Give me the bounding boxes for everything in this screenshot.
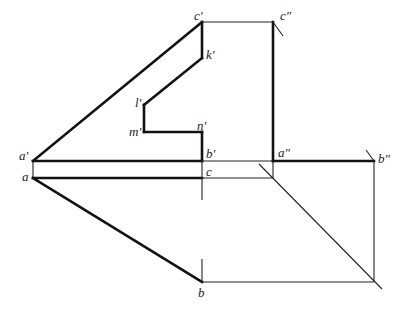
tick-b2 xyxy=(366,150,374,161)
label-a: a xyxy=(22,169,29,184)
label-b-prime: b′ xyxy=(206,146,216,161)
label-k-prime: k′ xyxy=(206,47,215,62)
label-l-prime: l′ xyxy=(135,95,142,110)
label-a-prime: a′ xyxy=(19,148,29,163)
label-m-prime: m′ xyxy=(129,124,141,139)
label-b-dprime: b″ xyxy=(378,151,391,166)
edge-a-b xyxy=(33,178,202,282)
label-c-dprime: c″ xyxy=(280,8,292,23)
label-n-prime: n′ xyxy=(197,118,207,133)
front-view xyxy=(33,22,202,161)
label-a-dprime: a″ xyxy=(278,145,291,160)
projection-diagram: c′ c″ k′ l′ m′ n′ a′ b′ a″ b″ a c b xyxy=(0,0,411,313)
edge-a1-c1 xyxy=(33,22,202,161)
label-c: c xyxy=(206,164,212,179)
tick-c2 xyxy=(273,22,283,36)
miter-line-45deg xyxy=(259,164,382,289)
label-b: b xyxy=(198,285,205,300)
edge-k1-l1 xyxy=(144,58,202,105)
label-c-prime: c′ xyxy=(194,8,203,23)
